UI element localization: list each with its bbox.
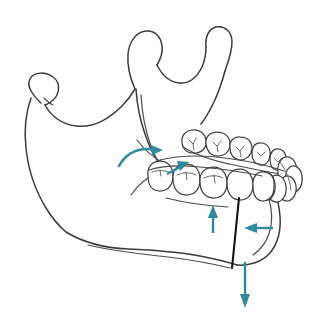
- chin-inferior-arrow: [240, 262, 250, 308]
- near-sigmoid-notch: [45, 89, 135, 126]
- body-superior-arrow: [208, 205, 218, 233]
- far-sigmoid-notch: [157, 47, 206, 83]
- inferior-border: [66, 232, 237, 265]
- chin-posterior-arrow-head: [244, 223, 257, 233]
- far-condyle: [206, 27, 232, 71]
- near-tooth-3: [200, 167, 227, 198]
- chin-posterior-arrow: [244, 223, 273, 233]
- posterior-ramus-border: [25, 98, 66, 232]
- buccal-surface-line: [166, 198, 228, 207]
- far-tooth-4: [252, 143, 270, 165]
- chin-inferior-arrow-head: [240, 294, 250, 308]
- external-oblique-ridge: [137, 140, 166, 164]
- near-condyle-and-ramus: [29, 73, 59, 105]
- body-lower-contour: [88, 245, 230, 268]
- rotation-arrow-head: [151, 145, 163, 155]
- vertical-osteotomy-cut: [232, 198, 239, 268]
- near-tooth-5: [253, 172, 274, 201]
- body-superior-arrow-head: [208, 205, 218, 218]
- mandible-illustration: Mandible osteotomy force diagram: [0, 0, 315, 323]
- near-teeth-row: [131, 161, 274, 201]
- coronoid-process: [128, 31, 162, 89]
- mandible-diagram-svg: Mandible osteotomy force diagram: [0, 0, 315, 323]
- retromolar-edge: [131, 178, 148, 195]
- near-side-ramus-group: [25, 73, 135, 232]
- near-tooth-1: [148, 161, 173, 191]
- far-posterior-ramus-border: [201, 71, 225, 124]
